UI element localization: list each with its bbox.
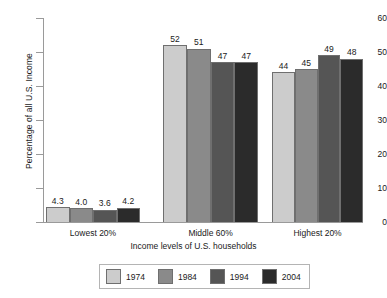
x-axis-line xyxy=(43,222,363,223)
bar-group: 4.34.03.64.2 xyxy=(46,18,140,222)
bar-value-label: 44 xyxy=(279,61,288,71)
bar: 47 xyxy=(234,62,258,222)
y-axis-title: Percentage of all U.S. Income xyxy=(24,16,34,206)
bar-value-label: 49 xyxy=(324,44,333,54)
y-tick-mark xyxy=(36,154,44,155)
legend-item: 1994 xyxy=(210,269,262,284)
bar: 4.2 xyxy=(117,208,141,222)
bar: 4.0 xyxy=(70,208,94,222)
bar-value-label: 51 xyxy=(194,37,203,47)
legend: 1974198419942004 xyxy=(99,264,310,289)
bar: 47 xyxy=(211,62,235,222)
bar: 4.3 xyxy=(46,207,70,222)
legend-label: 2004 xyxy=(282,272,301,282)
y-tick-mark xyxy=(36,222,44,223)
x-category-label: Highest 20% xyxy=(272,228,363,238)
bar: 49 xyxy=(318,55,341,222)
legend-swatch xyxy=(106,269,121,284)
bar: 3.6 xyxy=(93,210,117,222)
y-tick-mark xyxy=(36,86,44,87)
legend-swatch xyxy=(158,269,173,284)
y-tick-mark xyxy=(36,120,44,121)
plot-area: 4.34.03.64.25251474744454948 xyxy=(44,18,363,222)
bar-value-label: 4.3 xyxy=(52,196,64,206)
legend-swatch xyxy=(210,269,225,284)
bar-value-label: 48 xyxy=(347,47,356,57)
legend-label: 1974 xyxy=(126,272,145,282)
legend-item: 1984 xyxy=(158,269,210,284)
bar: 52 xyxy=(163,45,187,222)
bar-value-label: 4.2 xyxy=(122,196,134,206)
legend-swatch xyxy=(262,269,277,284)
bar-chart: Percentage of all U.S. Income 0102030405… xyxy=(0,0,387,298)
legend-label: 1994 xyxy=(230,272,249,282)
x-category-label: Lowest 20% xyxy=(46,228,140,238)
bar-value-label: 4.0 xyxy=(75,197,87,207)
y-tick-mark xyxy=(36,18,44,19)
bar: 51 xyxy=(187,49,211,222)
bar-value-label: 47 xyxy=(242,51,251,61)
bar-group: 52514747 xyxy=(163,18,258,222)
y-tick-mark xyxy=(36,188,44,189)
bar: 48 xyxy=(340,59,363,222)
bar-value-label: 52 xyxy=(170,34,179,44)
x-category-label: Middle 60% xyxy=(163,228,258,238)
legend-item: 1974 xyxy=(106,269,158,284)
bar: 44 xyxy=(272,72,295,222)
x-axis-title: Income levels of U.S. households xyxy=(0,241,387,251)
bar-value-label: 3.6 xyxy=(99,198,111,208)
bar: 45 xyxy=(295,69,318,222)
bar-group: 44454948 xyxy=(272,18,363,222)
bar-value-label: 47 xyxy=(218,51,227,61)
legend-item: 2004 xyxy=(262,269,303,284)
legend-label: 1984 xyxy=(178,272,197,282)
bar-value-label: 45 xyxy=(301,58,310,68)
y-tick-mark xyxy=(36,52,44,53)
